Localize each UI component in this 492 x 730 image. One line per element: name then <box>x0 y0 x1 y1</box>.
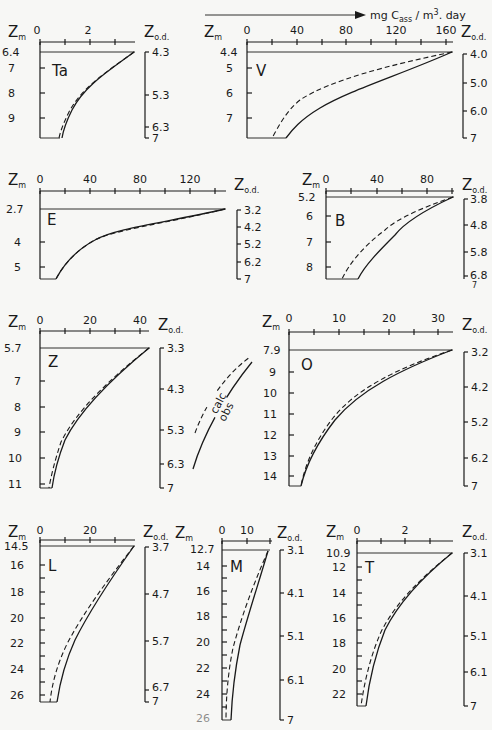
zm-tick: 8 <box>14 401 21 414</box>
zod-tick: 7 <box>152 695 159 708</box>
zod-tick: 5.1 <box>287 630 305 643</box>
zod-tick: 3.8 <box>470 193 488 206</box>
zm-tick: 7 <box>8 62 15 75</box>
zm-label: Zm <box>8 23 26 42</box>
zod-tick: 6.1 <box>470 666 488 679</box>
zm-tick: 12.7 <box>190 543 215 556</box>
zm-tick: 9 <box>8 112 15 125</box>
zm-label: Zm <box>326 523 344 542</box>
zm-label: Zm <box>175 524 193 543</box>
panel-label: M <box>230 558 243 576</box>
zm-tick: 18 <box>332 637 346 650</box>
zm-label: Zm <box>302 171 320 190</box>
panel-label: B <box>335 212 345 230</box>
x-tick: 2 <box>402 524 409 537</box>
obs-curve <box>286 52 452 138</box>
calc-curve <box>50 546 134 702</box>
zod-tick: 3.1 <box>470 547 488 560</box>
zm-tick: 10 <box>263 387 277 400</box>
arrow-right-icon <box>355 11 366 19</box>
calc-curve <box>342 197 453 279</box>
zod-tick: 7 <box>244 273 251 286</box>
x-tick: 0 <box>354 524 361 537</box>
panel-b: Zm 0 40 80 5.2 6 7 8 B Zo.d. 3.8 4.8 5.8… <box>298 171 488 290</box>
zm-tick: 10 <box>8 452 22 465</box>
x-tick: 0 <box>219 524 226 537</box>
zm-tick: 7 <box>306 236 313 249</box>
zod-label: Zo.d. <box>144 23 169 42</box>
calc-curve <box>301 350 452 486</box>
x-tick: 0 <box>37 314 44 327</box>
zm-tick: 7 <box>226 112 233 125</box>
obs-curve <box>57 546 134 702</box>
zm-tick: 14 <box>263 470 277 483</box>
calc-curve <box>361 553 452 706</box>
zm-tick: 5 <box>14 261 21 274</box>
panel-e: Zm 0 40 80 120 2.7 4 5 E Zo.d. 3.2 4.2 5… <box>6 171 262 286</box>
panel-label: Z <box>48 353 58 371</box>
zm-tick: 16 <box>332 612 346 625</box>
zod-tick: 6.1 <box>287 674 305 687</box>
unit-label: mg Cass / m3. day <box>370 8 466 24</box>
x-tick: 30 <box>431 312 445 325</box>
zod-tick: 4.2 <box>244 221 262 234</box>
zod-label: Zo.d. <box>158 316 183 335</box>
x-tick: 120 <box>180 173 201 186</box>
zod-label: Zo.d. <box>143 523 168 542</box>
zod-tick: 5.1 <box>470 630 488 643</box>
zod-tick: 7 <box>167 482 174 495</box>
x-tick: 10 <box>332 312 346 325</box>
obs-curve <box>358 197 453 279</box>
x-tick: 40 <box>83 173 97 186</box>
zm-tick: 8 <box>8 87 15 100</box>
zm-tick: 6 <box>226 87 233 100</box>
x-tick: 20 <box>83 314 97 327</box>
zod-tick: 6.7 <box>152 681 170 694</box>
zm-tick: 20 <box>196 636 210 649</box>
x-tick: 120 <box>386 24 407 37</box>
zm-tick: 7.9 <box>263 344 281 357</box>
zod-label: Zo.d. <box>462 316 487 335</box>
zod-tick: 4.0 <box>470 48 488 61</box>
zod-tick: 4.7 <box>152 588 170 601</box>
zod-tick: 5.3 <box>152 89 170 102</box>
zod-tick: 7 <box>472 281 477 290</box>
x-tick: 40 <box>370 173 384 186</box>
panel-t: Zm 0 2 10.9 12 14 16 18 20 22 T Zo.d. 3.… <box>326 523 488 713</box>
zod-tick: 7 <box>287 714 294 727</box>
zod-tick: 4.3 <box>167 383 185 396</box>
obs-curve <box>52 348 149 488</box>
zod-tick: 6.2 <box>471 452 489 465</box>
zm-tick: 9 <box>14 426 21 439</box>
obs-curve <box>301 350 452 486</box>
zm-tick: 14.5 <box>4 540 29 553</box>
zm-tick: 26 <box>10 689 24 702</box>
panel-label: V <box>256 62 267 80</box>
zod-tick: 7 <box>470 132 477 145</box>
zm-tick: 6.4 <box>2 46 20 59</box>
zod-tick: 3.2 <box>244 204 262 217</box>
zod-tick: 5.2 <box>244 238 262 251</box>
zm-tick: 5.7 <box>4 342 22 355</box>
panel-z: Zm 0 20 40 5.7 7 8 9 10 11 Z Zo.d. 3.3 4… <box>4 313 185 495</box>
figure-canvas: mg Cass / m3. day Zm 0 2 6.4 7 8 9 Ta Zo… <box>0 0 492 730</box>
x-tick: 0 <box>323 173 330 186</box>
zod-tick: 6.0 <box>470 105 488 118</box>
zod-tick: 7 <box>470 700 477 713</box>
zm-tick: 6 <box>306 210 313 223</box>
zod-tick: 7 <box>471 480 478 493</box>
zod-tick: 3.2 <box>471 346 489 359</box>
panel-m: Zm 0 10 12.7 14 16 18 20 22 24 26 M Zo.d… <box>175 524 305 727</box>
zm-tick: 22 <box>332 688 346 701</box>
zod-tick: 5.8 <box>470 246 488 259</box>
x-tick: 0 <box>37 173 44 186</box>
panel-label: T <box>364 559 375 577</box>
zm-tick: 18 <box>196 610 210 623</box>
legend: calc obs <box>193 357 252 469</box>
panel-ta: Zm 0 2 6.4 7 8 9 Ta Zo.d. 4.3 5.3 6.3 7 <box>2 23 170 145</box>
zm-tick: 13 <box>263 450 277 463</box>
unit-header: mg Cass / m3. day <box>205 8 466 24</box>
zm-tick: 18 <box>10 586 24 599</box>
x-tick: 2 <box>85 24 92 37</box>
zm-tick: 22 <box>196 662 210 675</box>
